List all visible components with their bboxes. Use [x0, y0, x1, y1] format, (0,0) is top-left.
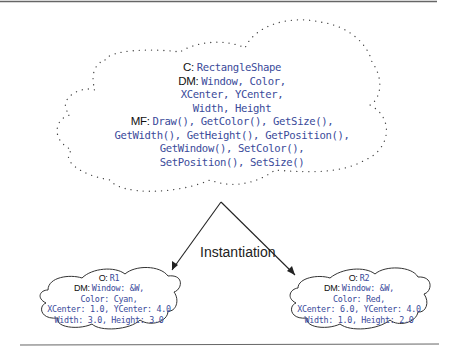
object-label: O:: [99, 273, 108, 283]
object-dm-line: DM: Window: &W,: [38, 283, 180, 293]
mf-label: MF:: [131, 115, 150, 127]
object-line: O: R1: [38, 273, 180, 283]
dm-value: Window: &W,: [92, 283, 144, 293]
dm-value: Width, Height: [52, 102, 412, 116]
instantiation-label: Instantiation: [200, 244, 276, 260]
dm-value: Width: 3.0, Height: 3.0: [38, 315, 180, 325]
dm-value: Color: Cyan,: [38, 294, 180, 304]
data-members-line: DM: Window, Color,: [52, 75, 412, 89]
mf-value: GetWindow(), SetColor(),: [52, 142, 412, 156]
dm-label: DM:: [178, 75, 198, 87]
object-name: R1: [110, 273, 119, 283]
class-cloud-text: C: RectangleShape DM: Window, Color, XCe…: [52, 61, 412, 169]
mf-value: SetPosition(), SetSize(): [52, 156, 412, 170]
object-name: R2: [360, 273, 369, 283]
class-label: C:: [183, 61, 194, 73]
mf-value: GetWidth(), GetHeight(), GetPosition(),: [52, 129, 412, 143]
dm-label: DM:: [324, 283, 340, 293]
object-r1-text: O: R1 DM: Window: &W, Color: Cyan, XCent…: [38, 273, 180, 325]
dm-value: XCenter: 1.0, YCenter: 4.0: [38, 304, 180, 314]
dm-value: Window: &W,: [342, 283, 394, 293]
dm-value: XCenter: 6.0, YCenter: 4.0: [288, 304, 430, 314]
object-label: O:: [349, 273, 358, 283]
dm-value: Color: Red,: [288, 294, 430, 304]
member-functions-line: MF: Draw(), GetColor(), GetSize(),: [52, 115, 412, 129]
dm-value: Width: 1.0, Height: 2.0: [288, 315, 430, 325]
diagram-canvas: C: RectangleShape DM: Window, Color, XCe…: [0, 0, 457, 358]
object-line: O: R2: [288, 273, 430, 283]
object-dm-line: DM: Window: &W,: [288, 283, 430, 293]
dm-value: Window, Color,: [201, 75, 285, 87]
object-r2-text: O: R2 DM: Window: &W, Color: Red, XCente…: [288, 273, 430, 325]
class-line: C: RectangleShape: [52, 61, 412, 75]
class-name: RectangleShape: [197, 61, 281, 73]
dm-value: XCenter, YCenter,: [52, 88, 412, 102]
mf-value: Draw(), GetColor(), GetSize(),: [152, 115, 333, 127]
instantiation-edge-r2: [221, 202, 295, 275]
bottom-rule: [20, 344, 439, 345]
dm-label: DM:: [74, 283, 90, 293]
